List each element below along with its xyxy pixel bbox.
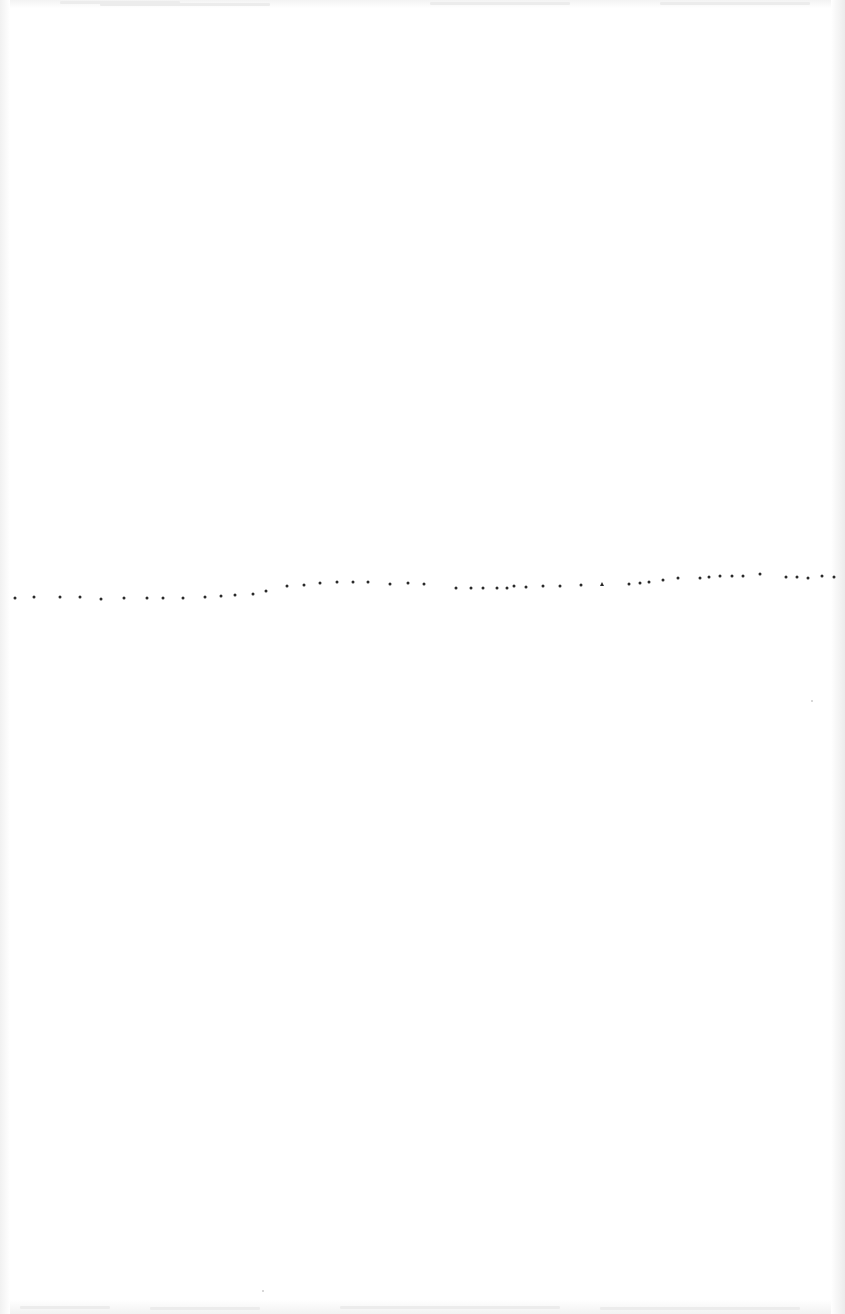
triangle-mark bbox=[600, 582, 604, 586]
dot-mark bbox=[79, 596, 82, 599]
dot-mark bbox=[182, 597, 185, 600]
dot-mark bbox=[513, 585, 516, 588]
dot-mark bbox=[265, 590, 268, 593]
dot-mark bbox=[807, 577, 810, 580]
dot-mark bbox=[482, 587, 485, 590]
dot-mark bbox=[648, 581, 651, 584]
dot-mark bbox=[123, 597, 126, 600]
dot-mark bbox=[759, 573, 762, 576]
dot-mark bbox=[525, 586, 528, 589]
dot-mark bbox=[639, 582, 642, 585]
dot-mark bbox=[220, 595, 223, 598]
dot-mark bbox=[234, 594, 237, 597]
dot-mark bbox=[162, 597, 165, 600]
dot-mark bbox=[662, 579, 665, 582]
dot-mark bbox=[146, 597, 149, 600]
dot-mark bbox=[14, 597, 17, 600]
dot-mark bbox=[303, 584, 306, 587]
dot-mark bbox=[559, 585, 562, 588]
dot-mark bbox=[33, 596, 36, 599]
dot-mark bbox=[699, 577, 702, 580]
scanned-page bbox=[0, 0, 845, 1314]
dot-mark bbox=[742, 575, 745, 578]
dot-mark bbox=[785, 576, 788, 579]
dot-mark bbox=[506, 587, 509, 590]
dot-mark bbox=[455, 587, 458, 590]
dot-mark bbox=[833, 576, 836, 579]
dot-mark bbox=[336, 581, 339, 584]
dot-mark bbox=[708, 576, 711, 579]
dot-mark bbox=[59, 596, 62, 599]
dotted-line bbox=[0, 0, 845, 1314]
dot-mark bbox=[423, 583, 426, 586]
dot-mark bbox=[286, 585, 289, 588]
scan-speck bbox=[262, 1290, 264, 1292]
dot-mark bbox=[628, 583, 631, 586]
dot-mark bbox=[204, 596, 207, 599]
dot-mark bbox=[367, 581, 370, 584]
dot-mark bbox=[100, 598, 103, 601]
dot-mark bbox=[677, 577, 680, 580]
dot-mark bbox=[319, 582, 322, 585]
dot-mark bbox=[731, 575, 734, 578]
dot-mark bbox=[407, 582, 410, 585]
dot-mark bbox=[352, 581, 355, 584]
dot-mark bbox=[252, 593, 255, 596]
dot-mark bbox=[389, 583, 392, 586]
dot-mark bbox=[796, 576, 799, 579]
dot-mark bbox=[719, 575, 722, 578]
dot-mark bbox=[542, 585, 545, 588]
dot-mark bbox=[580, 584, 583, 587]
dot-mark bbox=[470, 587, 473, 590]
dot-mark bbox=[496, 587, 499, 590]
scan-speck bbox=[811, 700, 813, 702]
dot-mark bbox=[821, 575, 824, 578]
